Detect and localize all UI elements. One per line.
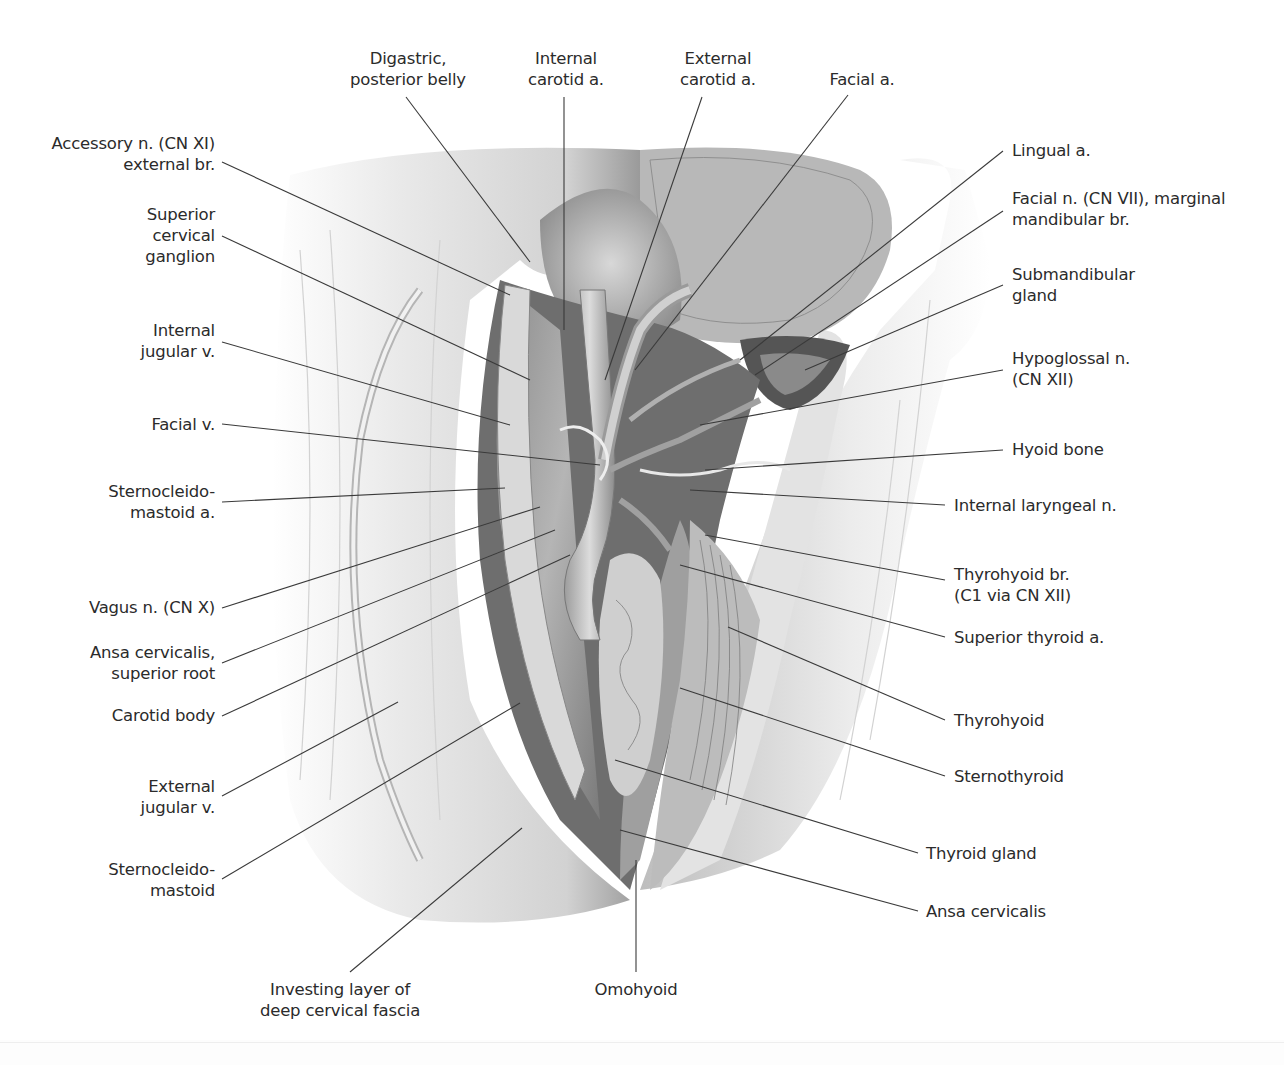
label-line: mastoid a. <box>108 502 215 523</box>
label-superior-cervical-ganglion: Superior cervical ganglion <box>145 204 215 267</box>
label-ansa-superior-root: Ansa cervicalis, superior root <box>90 642 215 684</box>
label-accessory-n: Accessory n. (CN XI) external br. <box>52 133 215 175</box>
label-line: (CN XII) <box>1012 369 1130 390</box>
label-submandibular-gland: Submandibular gland <box>1012 264 1135 306</box>
label-lingual-a: Lingual a. <box>1012 140 1090 161</box>
label-thyrohyoid: Thyrohyoid <box>954 710 1044 731</box>
label-line: Thyroid gland <box>926 843 1037 864</box>
label-superior-thyroid-a: Superior thyroid a. <box>954 627 1104 648</box>
label-line: External <box>141 776 215 797</box>
label-line: Internal <box>518 48 614 69</box>
label-ansa-cervicalis: Ansa cervicalis <box>926 901 1046 922</box>
label-line: Sternocleido- <box>108 481 215 502</box>
label-line: Facial a. <box>822 69 902 90</box>
label-line: Superior <box>145 204 215 225</box>
label-line: external br. <box>52 154 215 175</box>
label-line: Internal <box>141 320 215 341</box>
label-line: Superior thyroid a. <box>954 627 1104 648</box>
label-line: ganglion <box>145 246 215 267</box>
label-vagus-n: Vagus n. (CN X) <box>89 597 215 618</box>
label-line: Carotid body <box>112 705 215 726</box>
label-line: Sternocleido- <box>108 859 215 880</box>
label-hyoid-bone: Hyoid bone <box>1012 439 1104 460</box>
label-line: Sternothyroid <box>954 766 1064 787</box>
label-internal-laryngeal-n: Internal laryngeal n. <box>954 495 1117 516</box>
label-line: posterior belly <box>348 69 468 90</box>
label-line: carotid a. <box>518 69 614 90</box>
label-line: deep cervical fascia <box>250 1000 430 1021</box>
label-line: Internal laryngeal n. <box>954 495 1117 516</box>
label-line: Accessory n. (CN XI) <box>52 133 215 154</box>
label-facial-n: Facial n. (CN VII), marginal mandibular … <box>1012 188 1225 230</box>
label-carotid-body: Carotid body <box>112 705 215 726</box>
label-line: mandibular br. <box>1012 209 1225 230</box>
label-external-jugular-v: External jugular v. <box>141 776 215 818</box>
label-line: (C1 via CN XII) <box>954 585 1071 606</box>
label-line: gland <box>1012 285 1135 306</box>
label-line: superior root <box>90 663 215 684</box>
label-line: Vagus n. (CN X) <box>89 597 215 618</box>
label-line: cervical <box>145 225 215 246</box>
divider <box>0 1042 1284 1043</box>
cropped-caption-strip <box>0 1040 1284 1065</box>
label-sternocleidomastoid: Sternocleido- mastoid <box>108 859 215 901</box>
label-line: Hypoglossal n. <box>1012 348 1130 369</box>
label-line: External <box>670 48 766 69</box>
label-facial-v: Facial v. <box>151 414 215 435</box>
label-thyrohyoid-br: Thyrohyoid br. (C1 via CN XII) <box>954 564 1071 606</box>
label-digastric: Digastric, posterior belly <box>348 48 468 90</box>
label-line: Submandibular <box>1012 264 1135 285</box>
label-line: Ansa cervicalis <box>926 901 1046 922</box>
label-internal-carotid: Internal carotid a. <box>518 48 614 90</box>
label-line: jugular v. <box>141 341 215 362</box>
label-external-carotid: External carotid a. <box>670 48 766 90</box>
label-hypoglossal-n: Hypoglossal n. (CN XII) <box>1012 348 1130 390</box>
label-thyroid-gland: Thyroid gland <box>926 843 1037 864</box>
label-line: jugular v. <box>141 797 215 818</box>
label-line: Thyrohyoid br. <box>954 564 1071 585</box>
label-line: Ansa cervicalis, <box>90 642 215 663</box>
label-line: Lingual a. <box>1012 140 1090 161</box>
label-line: Hyoid bone <box>1012 439 1104 460</box>
label-internal-jugular-v: Internal jugular v. <box>141 320 215 362</box>
label-line: Digastric, <box>348 48 468 69</box>
label-omohyoid: Omohyoid <box>586 979 686 1000</box>
label-line: mastoid <box>108 880 215 901</box>
label-sternocleidomastoid-a: Sternocleido- mastoid a. <box>108 481 215 523</box>
label-line: Facial v. <box>151 414 215 435</box>
label-facial-a: Facial a. <box>822 69 902 90</box>
label-line: Investing layer of <box>250 979 430 1000</box>
label-line: carotid a. <box>670 69 766 90</box>
label-sternothyroid: Sternothyroid <box>954 766 1064 787</box>
label-investing-layer: Investing layer of deep cervical fascia <box>250 979 430 1021</box>
label-line: Thyrohyoid <box>954 710 1044 731</box>
label-line: Omohyoid <box>586 979 686 1000</box>
label-line: Facial n. (CN VII), marginal <box>1012 188 1225 209</box>
